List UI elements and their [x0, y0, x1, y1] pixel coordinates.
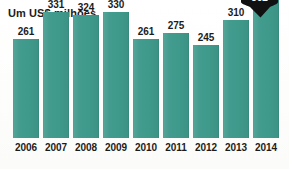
x-axis-tick-label: 2008 [75, 142, 97, 153]
bar-value-label: 261 [138, 26, 155, 37]
bar-value-label: 261 [18, 26, 35, 37]
x-axis-tick-label: 2010 [135, 142, 157, 153]
bar-shading [164, 33, 188, 138]
bar-group: 2612010 [133, 39, 159, 138]
bar-group: 3302009 [103, 12, 129, 138]
bar [133, 39, 159, 138]
x-axis-tick-label: 2013 [225, 142, 247, 153]
bar-chart: Um US$ milhões 2612006331200732420083302… [0, 0, 289, 169]
bar-group: 2752011 [163, 33, 189, 138]
bar-shading [224, 20, 248, 138]
bar-value-label: 331 [48, 0, 65, 10]
bar-shading [74, 15, 98, 139]
bar [253, 0, 279, 138]
bar [43, 12, 69, 138]
bar-shading [134, 39, 158, 138]
bar-value-label: 330 [108, 0, 125, 10]
value-callout-2014: 362 [241, 0, 278, 18]
bar-shading [254, 0, 278, 138]
bar-shading [194, 45, 218, 138]
x-axis-tick-label: 2012 [195, 142, 217, 153]
x-axis-tick-label: 2009 [105, 142, 127, 153]
bar-group: 3242008 [73, 15, 99, 139]
bar [163, 33, 189, 138]
bar-group: 3102013 [223, 20, 249, 138]
bar-shading [44, 12, 68, 138]
bar [13, 39, 39, 138]
x-axis-tick-label: 2007 [45, 142, 67, 153]
bar-group: 2014 [253, 0, 279, 138]
bar-group: 3312007 [43, 12, 69, 138]
x-axis-tick-label: 2011 [165, 142, 187, 153]
x-axis-tick-label: 2006 [15, 142, 37, 153]
plot-area: 2612006331200732420083302009261201027520… [0, 0, 289, 169]
bar [73, 15, 99, 139]
bar-shading [104, 12, 128, 138]
callout-value-label: 362 [241, 0, 278, 3]
bar [223, 20, 249, 138]
bar-shading [14, 39, 38, 138]
bar-group: 2452012 [193, 45, 219, 138]
bar-group: 2612006 [13, 39, 39, 138]
bar-value-label: 275 [168, 20, 185, 31]
bar-value-label: 324 [78, 2, 95, 13]
bar [103, 12, 129, 138]
bar-value-label: 245 [198, 32, 215, 43]
x-axis-tick-label: 2014 [255, 142, 277, 153]
bar [193, 45, 219, 138]
